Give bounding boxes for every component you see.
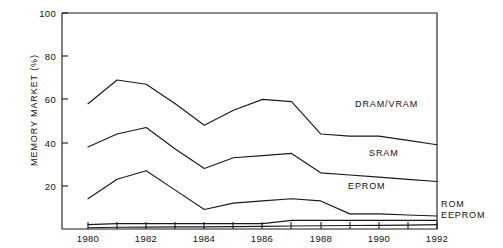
chart-figure: MEMORY MARKET (%) 100 80 60 40 20 1980 1… xyxy=(0,0,503,248)
y-axis-ticks xyxy=(62,13,68,186)
series-label-eprom: EPROM xyxy=(348,181,386,191)
x-tick-label-1992: 1992 xyxy=(415,233,459,244)
axis-frame-lines xyxy=(62,13,437,229)
y-tick-label-40: 40 xyxy=(20,138,56,149)
x-tick-label-1980: 1980 xyxy=(66,233,110,244)
series-label-dram-vram: DRAM/VRAM xyxy=(355,99,418,109)
y-tick-label-60: 60 xyxy=(20,94,56,105)
y-tick-label-100: 100 xyxy=(20,8,56,19)
y-tick-label-20: 20 xyxy=(20,181,56,192)
series-line-dram-vram xyxy=(88,80,437,145)
x-tick-label-1988: 1988 xyxy=(299,233,343,244)
memory-market-line-chart xyxy=(0,0,503,248)
plot-frame xyxy=(62,13,437,229)
series-label-eeprom: EEPROM xyxy=(441,210,485,220)
x-tick-label-1986: 1986 xyxy=(240,233,284,244)
x-tick-label-1984: 1984 xyxy=(182,233,226,244)
y-tick-label-80: 80 xyxy=(20,51,56,62)
series-label-rom: ROM xyxy=(441,199,465,209)
x-tick-label-1990: 1990 xyxy=(357,233,401,244)
x-tick-label-1982: 1982 xyxy=(124,233,168,244)
series-label-sram: SRAM xyxy=(369,148,399,158)
